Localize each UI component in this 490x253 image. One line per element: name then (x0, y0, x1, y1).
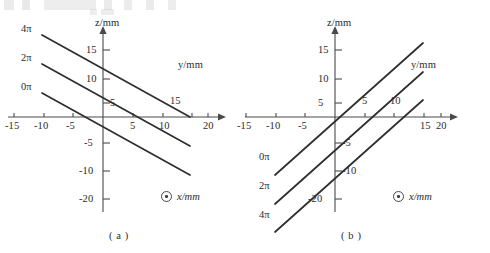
plot-b-xtick-label-10: 10 (390, 96, 401, 107)
plot-a-y-axis-label: z/mm (95, 18, 119, 29)
plot-b-ytick-label--10: -10 (342, 166, 356, 177)
plot-a-ytick-label-10: 10 (86, 74, 97, 85)
plot-a-ytick-label-15: 15 (86, 45, 97, 56)
plot-a-xtick-label-20: 20 (203, 121, 214, 132)
plot-a-phase-label-0pi: 0π (21, 82, 32, 93)
plot-a-xtick-label-15: 15 (170, 96, 181, 107)
plot-a-phase-label-4pi: 4π (21, 24, 32, 35)
figure-container: z/mm y/mm 15 10 5 -5 -10 -20 -15 -10 -5 … (0, 0, 490, 253)
plot-a-out-of-page-marker: x/mm (161, 191, 200, 202)
plot-a-xtick-label--5: -5 (66, 121, 75, 132)
plot-b-x-axis-arrow (450, 113, 458, 120)
plot-b-out-of-page-marker: x/mm (393, 191, 432, 202)
plot-b: z/mm y/mm 15 10 5 -5 -10 -20 -15 -10 -5 … (245, 0, 490, 253)
plot-b-phase-label-4pi: 4π (259, 210, 270, 221)
plot-a-ytick-label--20: -20 (79, 194, 93, 205)
plot-a-caption: ( a ) (109, 230, 129, 241)
plot-b-ytick-label-15: 15 (318, 45, 329, 56)
plot-a-xtick-label-5: 5 (130, 121, 135, 132)
plot-b-xtick-label-15: 15 (420, 121, 431, 132)
plot-b-ytick-label--20: -20 (308, 194, 322, 205)
plot-a-x-axis-label: y/mm (178, 60, 203, 71)
plot-a-xtick-label--10: -10 (34, 121, 48, 132)
plot-b-phase-label-2pi: 2π (259, 181, 270, 192)
plot-a-x-axis-arrow (218, 113, 226, 120)
plot-a-phase-label-2pi: 2π (21, 53, 32, 64)
plot-a-xtick-label-10: 10 (159, 121, 170, 132)
circled-dot-icon (393, 191, 404, 202)
plot-a-ytick-label--10: -10 (79, 166, 93, 177)
plot-b-ytick-label--5: -5 (342, 138, 351, 149)
plot-a-ytick-label-5: 5 (110, 98, 115, 109)
plot-b-ytick-label-10: 10 (318, 74, 329, 85)
plot-b-xtick-label--5: -5 (298, 121, 307, 132)
plot-b-x-axis-label: y/mm (411, 60, 436, 71)
plot-b-xtick-label-5: 5 (362, 96, 367, 107)
circled-dot-icon (161, 191, 172, 202)
plot-b-xtick-label-20: 20 (436, 121, 447, 132)
plot-b-ytick-label-5: 5 (318, 98, 323, 109)
plot-b-phase-label-0pi: 0π (259, 152, 270, 163)
plot-b-xtick-label--10: -10 (266, 121, 280, 132)
plot-a-ytick-label--5: -5 (84, 138, 93, 149)
plot-b-out-of-page-label: x/mm (409, 191, 432, 202)
plot-a-xtick-label--15: -15 (5, 121, 19, 132)
plot-b-line-0pi (275, 43, 423, 175)
plot-b-y-axis-label: z/mm (327, 18, 351, 29)
plot-a-out-of-page-label: x/mm (177, 191, 200, 202)
plot-b-canvas (245, 0, 490, 253)
plot-a: z/mm y/mm 15 10 5 -5 -10 -20 -15 -10 -5 … (0, 0, 245, 253)
plot-b-xtick-label--15: -15 (237, 121, 251, 132)
plot-b-caption: ( b ) (341, 230, 362, 241)
